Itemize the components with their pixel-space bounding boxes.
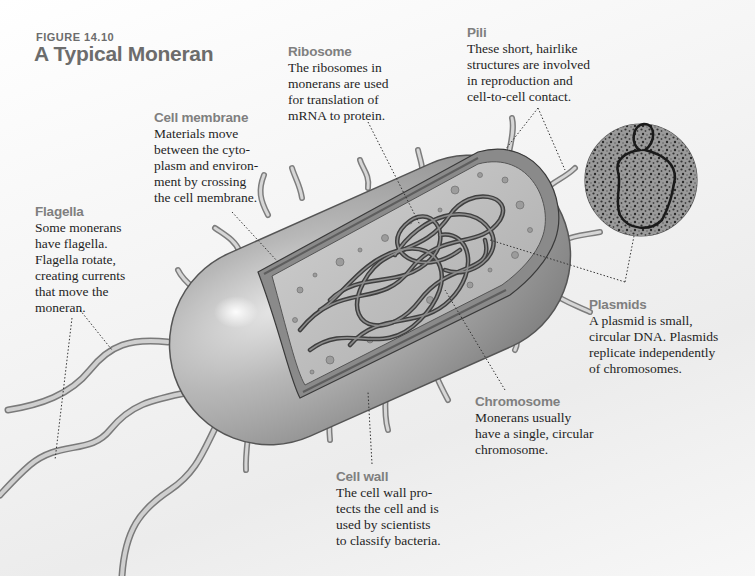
callout-cell-wall: Cell wall The cell wall pro- tects the c… [336,469,441,549]
ribosome-heading: Ribosome [288,44,388,60]
callout-ribosome: Ribosome The ribosomes in monerans are u… [288,44,388,124]
callout-cell-membrane: Cell membrane Materials move between the… [154,110,258,206]
cell-membrane-description: Materials move between the cyto- plasm a… [154,126,258,206]
callout-pili: Pili These short, hairlike structures ar… [467,25,590,105]
flagella-heading: Flagella [35,204,125,220]
cell-wall-description: The cell wall pro- tects the cell and is… [336,485,441,549]
cell-wall-heading: Cell wall [336,469,441,485]
plasmids-heading: Plasmids [589,297,718,313]
ribosome-description: The ribosomes in monerans are used for t… [288,60,388,124]
pili-description: These short, hairlike structures are inv… [467,41,590,105]
callout-plasmids: Plasmids A plasmid is small, circular DN… [589,297,718,377]
flagella-description: Some monerans have flagella. Flagella ro… [35,220,125,316]
plasmid-inset [585,124,697,236]
plasmids-description: A plasmid is small, circular DNA. Plasmi… [589,313,718,377]
cell-highlight [214,296,258,328]
cell-membrane-heading: Cell membrane [154,110,258,126]
chromosome-description: Monerans usually have a single, circular… [475,410,593,458]
callout-flagella: Flagella Some monerans have flagella. Fl… [35,204,125,316]
pili-heading: Pili [467,25,590,41]
chromosome-heading: Chromosome [475,394,593,410]
callout-chromosome: Chromosome Monerans usually have a singl… [475,394,593,458]
